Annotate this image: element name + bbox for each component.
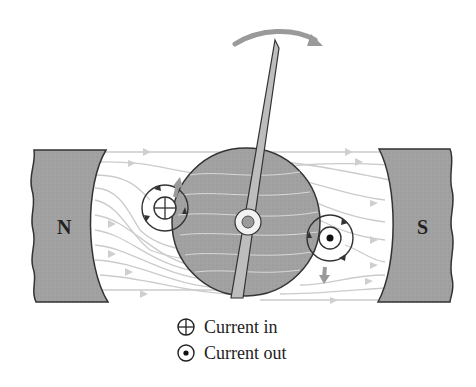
legend: Current in Current out — [176, 314, 287, 366]
current-out-icon — [176, 343, 196, 363]
south-pole-magnet — [378, 149, 453, 302]
current-in-icon — [176, 317, 196, 337]
north-pole-label: N — [57, 216, 72, 238]
rotation-arrow-icon — [235, 31, 323, 46]
legend-item-current-in: Current in — [176, 314, 287, 340]
legend-label-current-out: Current out — [204, 343, 287, 364]
legend-label-current-in: Current in — [204, 317, 278, 338]
legend-item-current-out: Current out — [176, 340, 287, 366]
south-pole-label: S — [417, 216, 428, 238]
